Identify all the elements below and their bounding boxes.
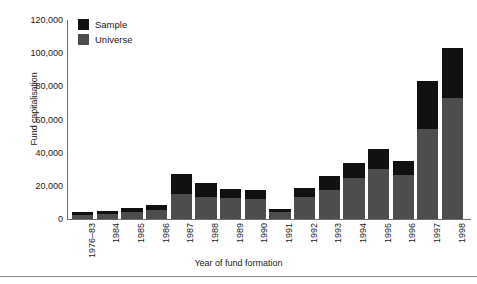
x-tick-label: 1985: [136, 223, 146, 243]
bar-segment-sample: [368, 149, 389, 169]
bar-group: [195, 183, 216, 219]
bar-segment-universe: [393, 175, 414, 219]
bar-segment-universe: [343, 178, 364, 219]
bar-segment-sample: [72, 212, 93, 214]
chart-figure: Fund capitalisation 120,000100,00080,000…: [0, 0, 477, 284]
y-tick-label: 20,000: [35, 181, 63, 191]
footer-divider: [0, 276, 477, 277]
bar-segment-universe: [121, 212, 142, 219]
bar-segment-sample: [442, 48, 463, 98]
bar-group: [146, 205, 167, 219]
bar-segment-universe: [146, 210, 167, 219]
bar-group: [343, 163, 364, 219]
bar-group: [393, 161, 414, 219]
bars-container: [68, 20, 471, 219]
bar-segment-sample: [97, 211, 118, 214]
plot-area: 120,000100,00080,00060,00040,00020,0000 …: [67, 20, 471, 219]
bar-segment-sample: [319, 176, 340, 190]
bar-group: [97, 211, 118, 219]
x-tick-label: 1994: [358, 223, 368, 243]
x-tick-label: 1993: [333, 223, 343, 243]
legend-swatch-sample: [78, 19, 89, 30]
bar-segment-universe: [269, 212, 290, 219]
bar-group: [121, 208, 142, 219]
bar-segment-universe: [417, 129, 438, 219]
bar-segment-universe: [72, 215, 93, 219]
legend-label-universe: Universe: [95, 34, 133, 45]
bar-segment-universe: [171, 194, 192, 219]
bar-segment-sample: [294, 188, 315, 198]
bar-segment-sample: [245, 190, 266, 199]
bar-segment-universe: [368, 169, 389, 219]
x-tick-label: 1976–83: [87, 223, 97, 258]
bar-group: [245, 190, 266, 219]
bar-group: [220, 189, 241, 219]
legend-entry-universe: Universe: [78, 32, 133, 47]
bar-group: [72, 212, 93, 219]
bar-segment-sample: [121, 208, 142, 212]
x-tick-label: 1998: [457, 223, 467, 243]
bar-segment-sample: [269, 209, 290, 212]
bar-segment-sample: [171, 174, 192, 194]
bar-segment-universe: [220, 198, 241, 219]
x-tick-label: 1986: [161, 223, 171, 243]
legend-swatch-universe: [78, 34, 89, 45]
bar-segment-universe: [97, 214, 118, 219]
bar-segment-universe: [442, 98, 463, 219]
bar-segment-sample: [417, 81, 438, 130]
x-tick-label: 1991: [284, 223, 294, 243]
legend-entry-sample: Sample: [78, 17, 133, 32]
bar-group: [368, 149, 389, 219]
x-tick-label: 1990: [259, 223, 269, 243]
bar-segment-universe: [319, 190, 340, 219]
bar-segment-sample: [220, 189, 241, 198]
bar-group: [269, 209, 290, 219]
y-tick-label: 80,000: [35, 81, 63, 91]
bar-group: [294, 188, 315, 220]
x-tick-label: 1996: [407, 223, 417, 243]
bar-segment-sample: [146, 205, 167, 210]
bar-group: [319, 176, 340, 219]
x-tick-label: 1997: [432, 223, 442, 243]
y-tick-label: 0: [58, 214, 63, 224]
legend-label-sample: Sample: [95, 19, 127, 30]
x-tick-label: 1989: [235, 223, 245, 243]
bar-segment-sample: [393, 161, 414, 175]
y-tick-label: 60,000: [35, 115, 63, 125]
x-tick-label: 1992: [309, 223, 319, 243]
bar-segment-sample: [343, 163, 364, 178]
x-tick-label: 1987: [185, 223, 195, 243]
bar-segment-universe: [195, 197, 216, 219]
x-axis-line: [67, 219, 471, 220]
bar-group: [442, 48, 463, 219]
bar-segment-sample: [195, 183, 216, 196]
bar-segment-universe: [245, 199, 266, 219]
x-axis-title: Year of fund formation: [0, 258, 477, 268]
y-tick-label: 120,000: [30, 15, 63, 25]
x-tick-label: 1984: [111, 223, 121, 243]
y-tick-label: 40,000: [35, 148, 63, 158]
y-tick-label: 100,000: [30, 48, 63, 58]
x-tick-label: 1988: [210, 223, 220, 243]
bar-segment-universe: [294, 197, 315, 219]
chart-legend: Sample Universe: [78, 17, 133, 47]
bar-group: [171, 174, 192, 219]
bar-group: [417, 81, 438, 219]
x-tick-label: 1995: [383, 223, 393, 243]
